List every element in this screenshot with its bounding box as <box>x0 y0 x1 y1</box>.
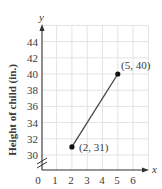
x-tick: 6 <box>130 174 136 186</box>
data-point-2-31 <box>69 144 74 149</box>
data-line-segment <box>72 74 118 147</box>
y-tick-labels: 30 32 34 36 38 40 42 44 <box>27 36 39 161</box>
y-tick: 34 <box>27 117 39 129</box>
x-tick: 5 <box>114 174 120 186</box>
x-tick: 4 <box>99 174 105 186</box>
x-tick: 2 <box>68 174 74 186</box>
y-tick: 32 <box>27 133 38 145</box>
data-point-5-40 <box>115 71 120 76</box>
y-axis-title: Height of child (in.) <box>6 64 19 156</box>
x-tick: 0 <box>35 174 41 186</box>
y-axis <box>37 24 47 170</box>
y-tick: 36 <box>27 100 39 112</box>
x-tick: 1 <box>52 174 58 186</box>
x-tick: 3 <box>84 174 90 186</box>
chart: y x Height of child (in.) 30 32 34 36 38… <box>0 0 162 189</box>
y-tick: 40 <box>27 68 39 80</box>
y-tick: 30 <box>27 149 39 161</box>
y-tick: 44 <box>27 36 39 48</box>
x-tick-labels: 0 1 2 3 4 5 6 <box>35 174 136 186</box>
y-tick: 38 <box>27 84 39 96</box>
y-axis-name: y <box>38 11 44 23</box>
point-label-2-31: (2, 31) <box>79 141 109 154</box>
x-axis-name: x <box>151 163 157 175</box>
y-tick: 42 <box>27 52 38 64</box>
point-label-5-40: (5, 40) <box>121 59 151 72</box>
